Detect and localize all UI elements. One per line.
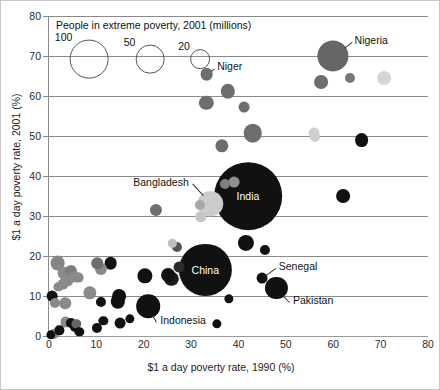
point-label-indonesia: Indonesia: [160, 314, 206, 326]
point-label-nigeria: Nigeria: [355, 34, 388, 46]
legend-size-label-50: 50: [124, 36, 136, 48]
y-axis-title: $1 a day poverty rate, 2001 (%): [10, 7, 22, 327]
leader-line-bangladesh: [192, 183, 204, 196]
bubble-china: [179, 244, 231, 296]
gridline-y-0: [49, 336, 428, 337]
bubble-point: [92, 257, 104, 269]
x-axis-title: $1 a day poverty rate, 1990 (%): [1, 361, 440, 373]
bubble-point: [310, 132, 320, 142]
bubble-point: [212, 319, 221, 328]
legend-circle-20: [190, 49, 210, 69]
x-tick-label-50: 50: [280, 338, 292, 350]
gridline-y-10: [49, 296, 428, 297]
bubble-point: [161, 268, 175, 282]
y-tick-label-30: 30: [29, 210, 41, 222]
y-tick-label-50: 50: [29, 130, 41, 142]
y-tick-label-10: 10: [29, 290, 41, 302]
point-label-bangladesh: Bangladesh: [133, 176, 188, 188]
bubble-point: [73, 272, 84, 283]
bubble-point: [174, 261, 185, 272]
legend-size-label-20: 20: [178, 40, 190, 52]
bubble-india: [214, 162, 282, 230]
bubble-point: [336, 189, 350, 203]
point-label-senegal: Senegal: [279, 260, 318, 272]
x-tick-label-0: 0: [46, 338, 52, 350]
y-tick-30: [43, 216, 49, 217]
legend-title: People in extreme poverty, 2001 (million…: [56, 19, 251, 31]
y-tick-20: [43, 256, 49, 257]
plot-area: 01020304050607080 01020304050607080 Nige…: [49, 16, 428, 336]
bubble-point: [239, 102, 250, 113]
bubble-chart-figure: $1 a day poverty rate, 1990 (%) $1 a day…: [0, 0, 440, 390]
bubble-point: [137, 268, 152, 283]
x-tick-label-40: 40: [233, 338, 245, 350]
bubble-point: [112, 289, 126, 303]
bubble-point: [99, 316, 108, 325]
bubble-point: [355, 133, 369, 147]
y-tick-label-70: 70: [29, 50, 41, 62]
leader-line-senegal: [266, 268, 276, 276]
bubble-point: [150, 204, 162, 216]
y-tick-label-60: 60: [29, 90, 41, 102]
x-tick-label-10: 10: [91, 338, 103, 350]
y-tick-40: [43, 176, 49, 177]
bubble-point: [125, 315, 134, 324]
x-tick-label-70: 70: [375, 338, 387, 350]
bubble-point: [224, 295, 233, 304]
y-tick-80: [43, 16, 49, 17]
legend-circle-50: [136, 45, 165, 74]
bubble-point: [315, 75, 329, 89]
legend-circle-100: [70, 40, 109, 79]
bubble-point: [115, 318, 126, 329]
size-legend: People in extreme poverty, 2001 (million…: [54, 19, 294, 81]
y-tick-label-20: 20: [29, 250, 41, 262]
gridline-y-60: [49, 96, 428, 97]
bubble-point: [199, 96, 213, 110]
bubble-point: [96, 297, 106, 307]
bubble-point: [345, 73, 355, 83]
y-tick-50: [43, 136, 49, 137]
legend-size-label-100: 100: [55, 31, 73, 43]
y-tick-label-40: 40: [29, 170, 41, 182]
bubble-point: [260, 245, 270, 255]
x-tick-label-80: 80: [422, 338, 434, 350]
gridline-y-80: [49, 16, 428, 17]
bubble-point: [50, 298, 60, 308]
bubble-nigeria: [318, 40, 349, 71]
bubble-point: [59, 297, 71, 309]
bubble-point: [83, 287, 96, 300]
y-tick-label-0: 0: [35, 330, 41, 342]
bubble-point: [195, 211, 207, 223]
bubble-point: [55, 326, 64, 335]
y-tick-70: [43, 56, 49, 57]
bubble-point: [238, 235, 254, 251]
bubble-point: [243, 124, 262, 143]
bubble-indonesia: [137, 294, 161, 318]
x-tick-label-30: 30: [185, 338, 197, 350]
gridline-y-50: [49, 136, 428, 137]
x-tick-label-20: 20: [138, 338, 150, 350]
point-label-pakistan: Pakistan: [293, 294, 333, 306]
bubble-point: [54, 283, 63, 292]
bubble-point: [215, 139, 228, 152]
y-tick-60: [43, 96, 49, 97]
x-tick-label-60: 60: [327, 338, 339, 350]
y-tick-label-80: 80: [29, 10, 41, 22]
bubble-point: [378, 71, 392, 85]
